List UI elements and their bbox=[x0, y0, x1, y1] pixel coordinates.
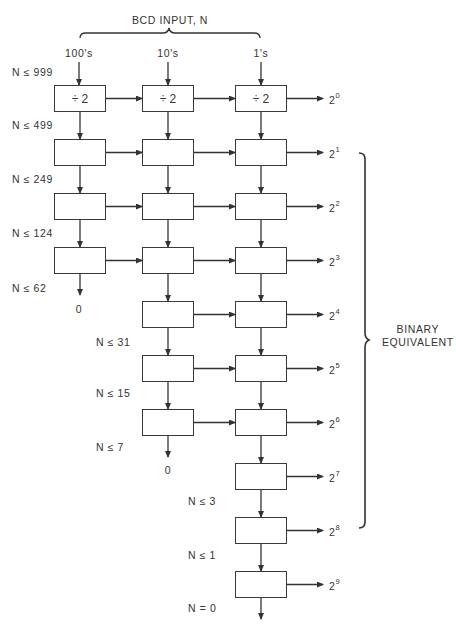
divider-box-c0-r3 bbox=[54, 247, 106, 274]
power-exponent: 1 bbox=[335, 145, 340, 154]
power-exponent: 4 bbox=[335, 307, 340, 316]
divider-box-c2-r6 bbox=[235, 409, 287, 436]
divider-box-c1-r1 bbox=[142, 139, 194, 166]
condition-label: N ≤ 1 bbox=[188, 549, 216, 561]
divider-box-c0-r2 bbox=[54, 193, 106, 220]
condition-label: N ≤ 249 bbox=[12, 173, 53, 185]
condition-label: N ≤ 7 bbox=[96, 441, 124, 453]
condition-label: N ≤ 62 bbox=[12, 282, 46, 294]
column-label-2: 1's bbox=[254, 47, 269, 59]
zero-output-label: 0 bbox=[76, 303, 82, 315]
binary-equivalent-label: BINARY EQUIVALENT bbox=[382, 323, 454, 349]
divider-box-c1-r3 bbox=[142, 247, 194, 274]
divider-box-c2-r4 bbox=[235, 301, 287, 328]
divider-box-c1-r6 bbox=[142, 409, 194, 436]
brace-label-line2: EQUIVALENT bbox=[382, 336, 454, 349]
divider-box-c2-r2 bbox=[235, 193, 287, 220]
condition-label: N ≤ 124 bbox=[12, 227, 53, 239]
divider-box-c2-r3 bbox=[235, 247, 287, 274]
divider-box-c1-r4 bbox=[142, 301, 194, 328]
divider-box-c2-r0: ÷ 2 bbox=[235, 85, 287, 112]
condition-label: N ≤ 31 bbox=[96, 336, 130, 348]
divider-box-c2-r1 bbox=[235, 139, 287, 166]
power-exponent: 3 bbox=[335, 253, 340, 262]
condition-label: N ≤ 499 bbox=[12, 119, 53, 131]
divider-box-c2-r5 bbox=[235, 355, 287, 382]
divider-box-c1-r5 bbox=[142, 355, 194, 382]
column-label-0: 100's bbox=[65, 47, 93, 59]
binary-output-5: 25 bbox=[329, 362, 340, 376]
divider-box-c2-r9 bbox=[235, 571, 287, 598]
condition-label: N ≤ 3 bbox=[188, 495, 216, 507]
divider-box-c1-r0: ÷ 2 bbox=[142, 85, 194, 112]
power-exponent: 8 bbox=[335, 523, 340, 532]
power-exponent: 6 bbox=[335, 415, 340, 424]
condition-label: N = 0 bbox=[188, 602, 216, 614]
zero-output-label: 0 bbox=[165, 464, 171, 476]
binary-output-7: 27 bbox=[329, 470, 340, 484]
divide-by-2-label: ÷ 2 bbox=[160, 92, 177, 106]
divider-box-c2-r7 bbox=[235, 463, 287, 490]
bcd-input-title: BCD INPUT, N bbox=[132, 14, 208, 26]
column-label-1: 10's bbox=[157, 47, 178, 59]
condition-label: N ≤ 15 bbox=[96, 387, 130, 399]
divider-box-c1-r2 bbox=[142, 193, 194, 220]
binary-output-0: 20 bbox=[329, 92, 340, 106]
condition-label: N ≤ 999 bbox=[12, 66, 53, 78]
divide-by-2-label: ÷ 2 bbox=[253, 92, 270, 106]
power-exponent: 7 bbox=[335, 469, 340, 478]
divider-box-c0-r0: ÷ 2 bbox=[54, 85, 106, 112]
power-exponent: 9 bbox=[335, 577, 340, 586]
binary-output-1: 21 bbox=[329, 146, 340, 160]
binary-output-8: 28 bbox=[329, 524, 340, 538]
power-exponent: 0 bbox=[335, 91, 340, 100]
input-brace bbox=[80, 28, 260, 38]
divide-by-2-label: ÷ 2 bbox=[72, 92, 89, 106]
power-exponent: 5 bbox=[335, 361, 340, 370]
binary-brace bbox=[359, 153, 369, 528]
binary-output-3: 23 bbox=[329, 254, 340, 268]
binary-output-6: 26 bbox=[329, 416, 340, 430]
power-exponent: 2 bbox=[335, 199, 340, 208]
divider-box-c0-r1 bbox=[54, 139, 106, 166]
binary-output-4: 24 bbox=[329, 308, 340, 322]
divider-box-c2-r8 bbox=[235, 517, 287, 544]
brace-label-line1: BINARY bbox=[382, 323, 454, 336]
binary-output-9: 29 bbox=[329, 578, 340, 592]
binary-output-2: 22 bbox=[329, 200, 340, 214]
